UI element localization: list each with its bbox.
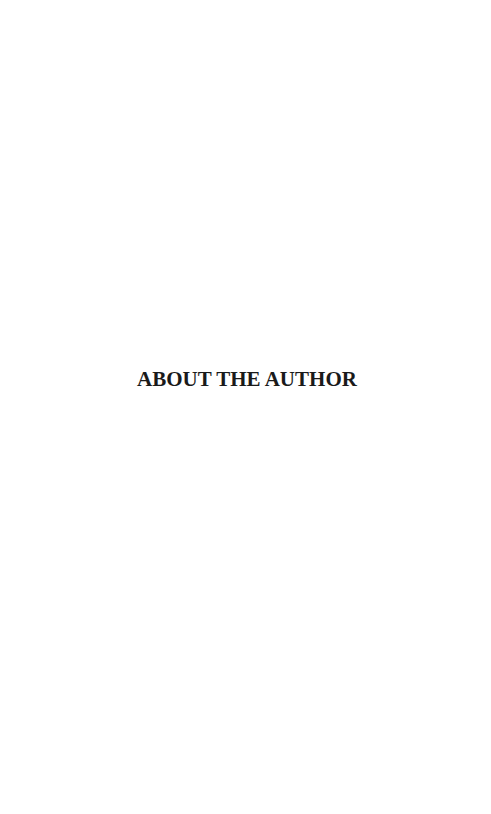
book-page: ABOUT THE AUTHOR [0,0,491,814]
section-title: ABOUT THE AUTHOR [0,366,491,392]
